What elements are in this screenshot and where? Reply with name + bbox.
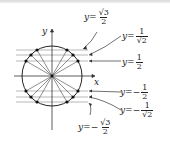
y-axis-label: y xyxy=(42,26,47,36)
label-arrows xyxy=(83,32,121,115)
label-1-over-sqrt2: y= 1√2 xyxy=(122,28,148,45)
x-axis-label: x xyxy=(94,77,99,87)
label-neg-sqrt3-over-2: y=− √32 xyxy=(78,119,111,136)
label-neg-1-over-sqrt2: y=− 1√2 xyxy=(120,102,153,119)
label-neg-1-over-2: y=− 12 xyxy=(120,84,148,101)
label-sqrt3-over-2: y= √32 xyxy=(84,9,110,26)
axes xyxy=(14,29,95,130)
label-1-over-2: y= 12 xyxy=(122,54,143,71)
